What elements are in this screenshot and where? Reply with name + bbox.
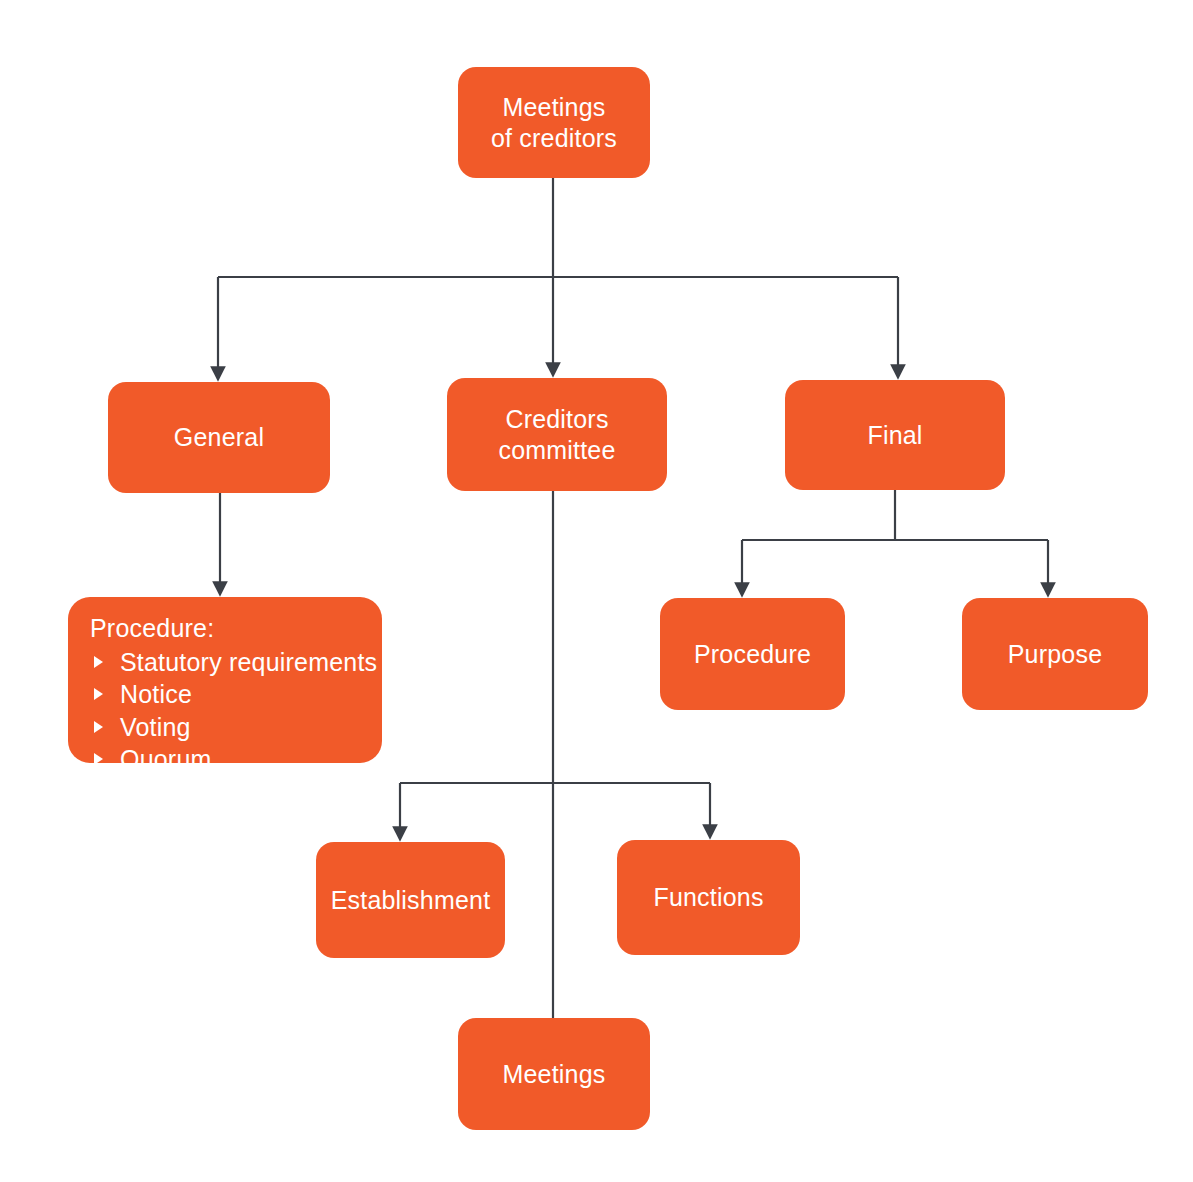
- node-committee-functions[interactable]: Functions: [617, 840, 800, 955]
- node-committee-meetings[interactable]: Meetings: [458, 1018, 650, 1130]
- list-item[interactable]: Statutory requirements: [90, 646, 364, 679]
- node-final-purpose[interactable]: Purpose: [962, 598, 1148, 710]
- triangle-bullet-icon: [94, 721, 103, 733]
- node-label: Procedure: [694, 639, 811, 670]
- node-label: Final: [867, 420, 922, 451]
- list-item-label: Statutory requirements: [120, 648, 377, 676]
- node-final-procedure[interactable]: Procedure: [660, 598, 845, 710]
- node-label: Establishment: [331, 885, 491, 916]
- node-label: Functions: [653, 882, 763, 913]
- triangle-bullet-icon: [94, 753, 103, 765]
- triangle-bullet-icon: [94, 688, 103, 700]
- node-label: General: [174, 422, 264, 453]
- node-label: Creditors committee: [498, 404, 615, 465]
- node-label: Meetings of creditors: [491, 92, 617, 153]
- node-committee-establishment[interactable]: Establishment: [316, 842, 505, 958]
- list-item-label: Voting: [120, 713, 191, 741]
- node-general-procedure[interactable]: Procedure: Statutory requirements Notice…: [68, 597, 382, 763]
- list-item[interactable]: Notice: [90, 678, 364, 711]
- node-general[interactable]: General: [108, 382, 330, 493]
- procedure-bullet-list: Statutory requirements Notice Voting Quo…: [90, 646, 364, 776]
- node-meetings-of-creditors[interactable]: Meetings of creditors: [458, 67, 650, 178]
- list-item[interactable]: Voting: [90, 711, 364, 744]
- procedure-list-title: Procedure:: [90, 613, 364, 644]
- diagram-canvas: Meetings of creditors General Creditors …: [0, 0, 1193, 1182]
- list-item-label: Notice: [120, 680, 192, 708]
- node-label: Meetings: [502, 1059, 605, 1090]
- list-item[interactable]: Quorum: [90, 743, 364, 776]
- list-item-label: Quorum: [120, 745, 212, 773]
- node-label: Purpose: [1008, 639, 1103, 670]
- node-final[interactable]: Final: [785, 380, 1005, 490]
- triangle-bullet-icon: [94, 656, 103, 668]
- node-creditors-committee[interactable]: Creditors committee: [447, 378, 667, 491]
